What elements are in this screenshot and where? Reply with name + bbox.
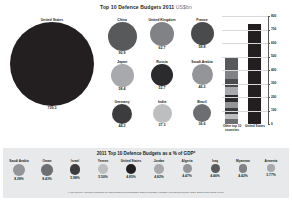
gdp-circle-yemen	[98, 164, 108, 174]
axis-tick-label: 700	[271, 27, 276, 31]
bubble-value-germany: 44.2	[102, 124, 142, 128]
gdp-value-united-states: 4.85%	[117, 175, 145, 179]
bar-chart-y-axis: 800 700 600 500 400 300	[268, 16, 292, 124]
gdp-item-armenia: Armenia 3.77%	[257, 159, 285, 177]
gdp-bubble-row: Saudi Arabia 8.28% Oman 8.43% Israel 5.9…	[5, 159, 287, 189]
gdp-label-yemen: Yemen	[89, 159, 117, 163]
bubble-label-saudi-arabia: Saudi Arabia	[182, 60, 222, 64]
gdp-label-jordan: Jordan	[145, 159, 173, 163]
bubble-label-russia: Russia	[142, 60, 182, 64]
gdp-value-armenia: 3.77%	[257, 173, 285, 177]
bar-segment-japan	[225, 87, 238, 95]
bar-segment-china	[225, 58, 238, 70]
gdp-circle-oman	[41, 164, 53, 176]
bubble-label-china: China	[102, 18, 142, 22]
bubble-label-india: India	[142, 100, 182, 104]
gdp-value-jordan: 4.82%	[145, 175, 173, 179]
gdp-value-algeria: 4.47%	[173, 174, 201, 178]
gdp-value-saudi-arabia: 8.28%	[5, 177, 33, 181]
bar-other-top-10-countries: Other top 10 countries	[225, 58, 238, 124]
tick-mark-icon	[268, 43, 270, 44]
gdp-panel-title: 2011 Top 10 Defence Budgets as a % of GD…	[3, 151, 289, 156]
gdp-value-yemen: 5.50%	[89, 175, 117, 179]
axis-tick-label: 100	[271, 108, 276, 112]
gdp-percentage-panel: 2011 Top 10 Defence Budgets as a % of GD…	[3, 148, 289, 198]
gdp-circle-iraq	[211, 164, 220, 173]
gdp-item-israel: Israel 5.98%	[61, 159, 89, 180]
tick-mark-icon	[268, 84, 270, 85]
gdp-circle-united-states	[126, 164, 136, 174]
bubble-label-united-kingdom: United Kingdom	[142, 18, 182, 22]
bubble-united-kingdom: United Kingdom 62.7	[142, 18, 182, 50]
gdp-item-united-states: United States 4.85%	[117, 159, 145, 179]
tick-mark-icon	[268, 57, 270, 58]
bubble-circle-brazil	[193, 104, 211, 122]
bubble-japan: Japan 58.4	[102, 60, 142, 91]
bubble-circle-germany	[112, 104, 132, 124]
gdp-value-israel: 5.98%	[61, 176, 89, 180]
gridline	[222, 97, 268, 98]
gridline	[222, 16, 268, 17]
axis-tick-label: 200	[271, 95, 276, 99]
tick-mark-icon	[268, 16, 270, 17]
gdp-value-myanmar: 4.42%	[229, 174, 257, 178]
stacked-bar-comparison: Other top 10 countries United States	[222, 16, 270, 138]
bar-label-other-top-10-countries: Other top 10 countries	[221, 125, 243, 132]
gridline	[222, 84, 268, 85]
bubble-france: France 58.8	[182, 18, 222, 49]
bubble-label-japan: Japan	[102, 60, 142, 64]
gdp-label-algeria: Algeria	[173, 159, 201, 163]
bubble-united-states: United States 739.3	[6, 18, 98, 110]
gridline	[222, 70, 268, 71]
tick-mark-icon	[268, 30, 270, 31]
tick-mark-icon	[268, 111, 270, 112]
gdp-circle-jordan	[154, 164, 164, 174]
page-title: Top 10 Defence Budgets 2011 US$bn	[0, 4, 292, 10]
axis-tick-label: 300	[271, 81, 276, 85]
gdp-item-algeria: Algeria 4.47%	[173, 159, 201, 178]
bubble-label-brazil: Brazil	[182, 100, 222, 104]
bubble-circle-russia	[151, 64, 173, 86]
gdp-item-iraq: Iraq 4.46%	[201, 159, 229, 178]
bubble-saudi-arabia: Saudi Arabia 46.2	[182, 60, 222, 89]
gdp-label-saudi-arabia: Saudi Arabia	[5, 159, 33, 163]
bar-segment-russia	[225, 95, 238, 102]
bar-label-united-states: United States	[244, 125, 266, 129]
axis-tick-label: 0	[271, 122, 273, 126]
gdp-circle-saudi-arabia	[13, 164, 25, 176]
gdp-label-armenia: Armenia	[257, 159, 285, 163]
gdp-circle-armenia	[267, 164, 275, 172]
gdp-circle-myanmar	[239, 164, 248, 173]
bubble-value-united-states: 739.3	[6, 106, 98, 110]
gridline	[222, 111, 268, 112]
footnote: *Analysis only includes countries for wh…	[3, 191, 289, 194]
bubble-circle-united-kingdom	[150, 22, 174, 46]
bubble-circle-saudi-arabia	[192, 64, 213, 85]
defence-budgets-bubble-chart: Top 10 Defence Budgets 2011 US$bn United…	[0, 0, 292, 146]
bubble-circle-japan	[111, 64, 134, 87]
gridline	[222, 57, 268, 58]
main-title-text: Top 10 Defence Budgets 2011	[100, 4, 174, 10]
bubble-circle-france	[191, 22, 214, 45]
bubble-russia: Russia 52.7	[142, 60, 182, 90]
tick-mark-icon	[268, 124, 270, 125]
bubble-value-china: 90.9	[102, 51, 142, 55]
bubble-india: India 37.3	[142, 100, 182, 127]
axis-tick-label: 800	[271, 14, 276, 18]
bubble-value-india: 37.3	[142, 123, 182, 127]
bubble-value-united-kingdom: 62.7	[142, 46, 182, 50]
bubble-value-saudi-arabia: 46.2	[182, 85, 222, 89]
tick-mark-icon	[268, 70, 270, 71]
bubble-value-russia: 52.7	[142, 86, 182, 90]
gdp-item-yemen: Yemen 5.50%	[89, 159, 117, 179]
bubble-label-germany: Germany	[102, 100, 142, 104]
gdp-item-jordan: Jordan 4.82%	[145, 159, 173, 179]
gdp-label-myanmar: Myanmar	[229, 159, 257, 163]
bubble-label-france: France	[182, 18, 222, 22]
axis-tick-label: 400	[271, 68, 276, 72]
gridline	[222, 30, 268, 31]
bubble-circle-united-states	[10, 22, 94, 106]
gdp-circle-israel	[70, 164, 81, 175]
gdp-item-oman: Oman 8.43%	[33, 159, 61, 181]
bubble-circle-china	[108, 22, 137, 51]
